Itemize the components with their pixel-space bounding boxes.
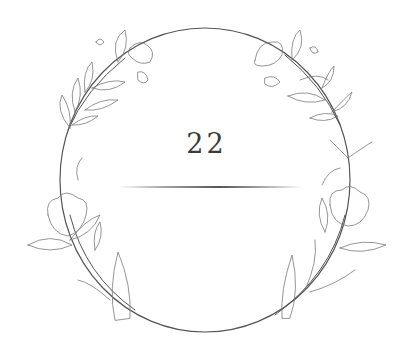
date-number: 22 — [0, 128, 413, 159]
floral-wreath — [0, 0, 413, 349]
right-branch-top — [254, 30, 352, 125]
divider-line — [118, 186, 302, 188]
right-branch-bottom — [275, 140, 386, 318]
left-branch-bottom — [28, 158, 135, 320]
